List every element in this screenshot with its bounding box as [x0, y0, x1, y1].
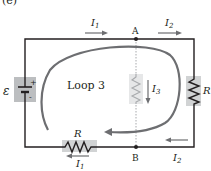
- battery: + - ε: [3, 75, 37, 104]
- emf-label: ε: [3, 84, 9, 98]
- current-arrow-left: [66, 154, 72, 159]
- bottom-left-wire: [25, 104, 62, 147]
- current-arrow-right: [176, 31, 182, 36]
- node-b-label: B: [132, 153, 139, 163]
- panel-label: (e): [2, 0, 17, 7]
- right-resistor: R: [186, 76, 211, 106]
- battery-minus-sign: -: [29, 93, 32, 102]
- current-arrow-right: [102, 31, 108, 36]
- battery-plus-sign: +: [30, 78, 37, 87]
- loop-label: Loop 3: [67, 79, 105, 92]
- bottom-resistor-label: R: [73, 128, 82, 139]
- current-label-i1-top: I1: [90, 17, 99, 30]
- node-b-dot: [134, 145, 138, 149]
- current-label-i3: I3: [151, 83, 161, 96]
- current-label-i2-top: I2: [164, 17, 174, 30]
- right-resistor-label: R: [202, 85, 211, 96]
- circuit-diagram: (e) + - ε R R A B: [0, 0, 211, 171]
- bottom-resistor: R: [62, 128, 97, 152]
- current-arrow-left: [165, 138, 171, 143]
- node-a-dot: [134, 37, 138, 41]
- node-a-label: A: [131, 26, 139, 36]
- loop-arrowhead: [104, 128, 112, 136]
- current-arrow-down: [146, 98, 151, 104]
- current-label-i2-bottom: I2: [172, 152, 182, 165]
- bottom-right-wire: [97, 106, 194, 147]
- current-label-i1-bottom: I1: [75, 158, 84, 171]
